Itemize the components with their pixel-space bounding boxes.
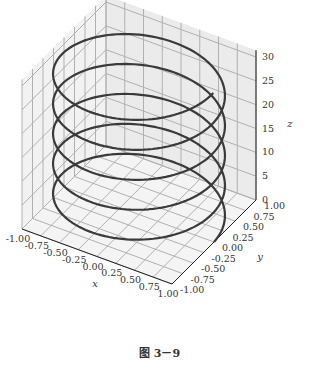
z-tick-label: 20 <box>262 99 274 110</box>
y-tick-label: 0.75 <box>254 211 275 222</box>
z-tick-label: 5 <box>262 170 268 181</box>
y-tick-label: -1.00 <box>180 284 204 295</box>
y-tick-label: -0.50 <box>201 263 225 274</box>
y-tick-label: -0.25 <box>212 253 236 264</box>
z-tick-label: 0 <box>262 194 268 205</box>
z-tick-label: 15 <box>262 123 274 134</box>
figure-caption: 图 3－9 <box>0 344 319 360</box>
helix-3d-plot: -1.00-0.75-0.50-0.250.000.250.500.751.00… <box>0 0 319 370</box>
y-tick-label: 0.50 <box>243 221 264 232</box>
x-axis-label: x <box>92 278 98 289</box>
y-axis-label: y <box>256 251 263 262</box>
y-tick-label: 0.25 <box>233 232 254 243</box>
z-tick-label: 30 <box>262 51 274 62</box>
y-tick-label: -0.75 <box>191 274 215 285</box>
z-tick-label: 25 <box>262 75 274 86</box>
x-tick-label: 1.00 <box>157 288 178 299</box>
y-tick-label: 0.00 <box>222 242 243 253</box>
z-axis-label: z <box>286 118 293 129</box>
z-tick-label: 10 <box>262 146 274 157</box>
